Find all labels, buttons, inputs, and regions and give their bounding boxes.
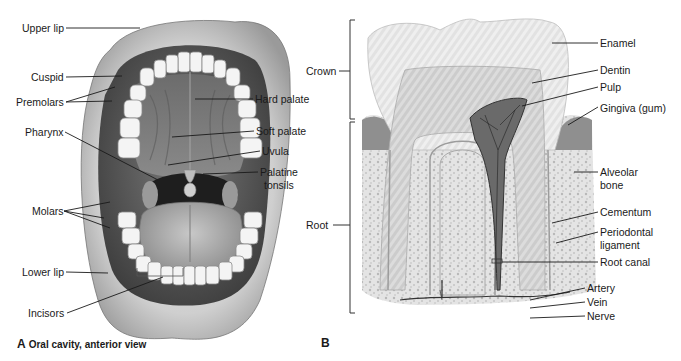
label-root-canal: Root canal [600,256,650,268]
anatomy-figure: Upper lip Cuspid Premolars Pharynx Molar… [0,0,681,361]
label-periodontal: Periodontal [600,226,653,238]
label-pharynx: Pharynx [25,126,64,138]
label-cementum: Cementum [600,206,651,218]
label-molars: Molars [32,205,64,217]
label-pulp: Pulp [600,81,621,93]
label-premolars: Premolars [16,96,64,108]
label-root: Root [306,219,328,231]
label-incisors: Incisors [28,307,64,319]
label-artery: Artery [587,282,615,294]
label-gingiva: Gingiva (gum) [600,102,666,114]
label-alveolar: Alveolar [600,166,638,178]
label-enamel: Enamel [600,37,636,49]
label-vein: Vein [587,296,607,308]
label-cuspid: Cuspid [31,71,64,83]
label-soft-palate: Soft palate [256,125,306,137]
oral-cavity-illustration [0,0,681,361]
panel-letter-b: B [321,336,330,350]
label-hard-palate: Hard palate [255,93,309,105]
label-crown: Crown [306,65,336,77]
label-dentin: Dentin [600,64,630,76]
caption-text-a: Oral cavity, anterior view [29,339,147,350]
label-nerve: Nerve [587,310,615,322]
label-ligament: ligament [600,239,640,251]
label-palatine: Palatine [260,166,298,178]
panel-letter-a: A [17,337,26,351]
label-uvula: Uvula [262,145,289,157]
label-bone: bone [600,179,623,191]
caption-panel-a: AOral cavity, anterior view [17,337,146,351]
label-tonsils: tonsils [264,179,294,191]
label-lower-lip: Lower lip [22,266,64,278]
label-upper-lip: Upper lip [22,22,64,34]
